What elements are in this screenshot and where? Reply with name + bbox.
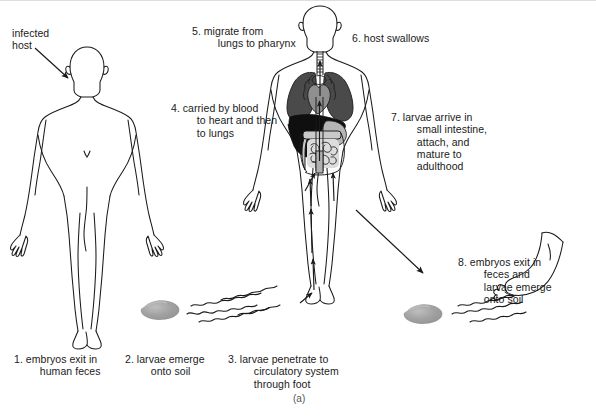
step-label-6: 6. host swallows bbox=[352, 32, 429, 44]
infected-host-arrow bbox=[35, 48, 68, 78]
step-label-8: 8. embryos exit in feces and larvae emer… bbox=[458, 256, 552, 305]
small-intestine-organ bbox=[307, 139, 339, 168]
exit-arrow-to-step8 bbox=[356, 210, 423, 273]
heart-organ bbox=[304, 75, 336, 114]
circulatory-path-arrows bbox=[300, 61, 334, 303]
step-label-3: 3. larvae penetrate to circulatory syste… bbox=[228, 353, 339, 390]
step-label-5: 5. migrate from lungs to pharynx bbox=[192, 25, 296, 50]
step-label-7: 7. larvae arrive in small intestine, att… bbox=[391, 111, 487, 172]
trachea-organ bbox=[317, 51, 323, 75]
larvae-trail-left bbox=[187, 286, 280, 322]
stomach-organ bbox=[322, 121, 347, 146]
annotation-infected-host: infected host bbox=[12, 27, 49, 52]
liver-organ bbox=[288, 115, 345, 158]
step-label-4: 4. carried by blood to heart and then to… bbox=[171, 102, 277, 139]
figure-caption: (a) bbox=[293, 393, 305, 404]
anatomical-figure bbox=[244, 6, 397, 304]
lungs-organ bbox=[287, 72, 353, 121]
infected-host-figure bbox=[11, 47, 164, 349]
step-label-1: 1. embryos exit in human feces bbox=[14, 353, 101, 378]
figure-canvas: infected host 1. embryos exit in human f… bbox=[0, 0, 596, 418]
gut-channel bbox=[316, 97, 323, 173]
soil-feces-blob-right bbox=[404, 304, 443, 324]
soil-feces-blob-left bbox=[141, 300, 180, 320]
step-label-2: 2. larvae emerge onto soil bbox=[125, 353, 205, 378]
large-intestine-organ bbox=[300, 131, 344, 175]
